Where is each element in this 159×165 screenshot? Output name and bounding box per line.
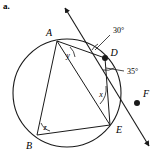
point-label-E: E	[115, 124, 122, 135]
circle-diagram-svg: A D E B F 30° 35° x y z	[0, 0, 159, 165]
geometry-figure: a. A D	[0, 0, 159, 165]
angle-label-35: 35°	[127, 67, 138, 76]
point-label-F: F	[142, 88, 150, 99]
angle-label-z: z	[42, 123, 47, 132]
angle-label-x: x	[98, 90, 103, 99]
angle-label-y: y	[65, 51, 70, 60]
angle-label-30: 30°	[113, 26, 124, 35]
leader-line-30	[95, 35, 110, 50]
angle-arc-y	[70, 47, 75, 57]
point-label-A: A	[45, 27, 53, 38]
point-marker-D	[102, 55, 108, 61]
part-label: a.	[3, 1, 10, 11]
point-label-D: D	[109, 47, 118, 58]
point-marker-F	[134, 100, 140, 106]
chord-AD	[57, 41, 105, 58]
chord-AE-diagonal	[57, 41, 110, 125]
chord-AB	[37, 41, 57, 135]
point-label-B: B	[26, 140, 32, 151]
